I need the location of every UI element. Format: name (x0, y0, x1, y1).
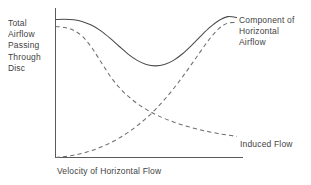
induced-flow-label: Induced Flow (240, 139, 310, 150)
y-axis-label: Total Airflow Passing Through Disc (8, 18, 52, 74)
series-total-airflow-curve (56, 17, 238, 66)
chart-figure: Total Airflow Passing Through Disc Veloc… (0, 0, 311, 185)
series-induced-flow-curve (56, 27, 238, 137)
series-component-horizontal-airflow-curve (56, 22, 238, 157)
component-of-horizontal-airflow-label: Component of Horizontal Airflow (239, 15, 309, 49)
x-axis-label: Velocity of Horizontal Flow (57, 166, 161, 177)
